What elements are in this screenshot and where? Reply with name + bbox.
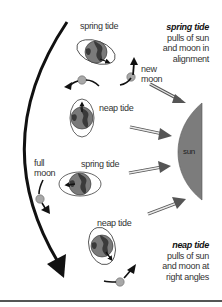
earth-neap-tide-lower-icon bbox=[85, 224, 120, 267]
label-neap-tide-upper: neap tide bbox=[99, 103, 133, 113]
sunlight-arrow-icon bbox=[129, 161, 171, 173]
caption-spring-tide: spring tide pulls of sun and moon in ali… bbox=[129, 22, 209, 64]
caption-spring-tide-body: pulls of sun and moon in alignment bbox=[129, 33, 209, 65]
orbit-arrow-icon bbox=[24, 22, 67, 278]
sunlight-arrow-icon bbox=[148, 197, 186, 214]
sunlight-arrows bbox=[129, 84, 186, 214]
caption-neap-tide-title: neap tide bbox=[129, 240, 209, 251]
label-full-moon: full moon bbox=[34, 158, 55, 178]
sunlight-arrow-icon bbox=[150, 84, 186, 103]
caption-neap-tide: neap tide pulls of sun and moon at right… bbox=[129, 240, 209, 282]
bottom-divider bbox=[0, 300, 222, 302]
earth-spring-tide-new-moon-icon bbox=[73, 35, 118, 69]
label-neap-tide-lower: neap tide bbox=[97, 218, 131, 228]
label-new-moon: new moon bbox=[141, 64, 162, 84]
earth-neap-tide-upper-icon bbox=[70, 99, 94, 137]
moon-orbit-indicator-icon bbox=[64, 76, 99, 90]
label-spring-tide-middle: spring tide bbox=[81, 159, 119, 169]
caption-spring-tide-title: spring tide bbox=[129, 22, 209, 33]
label-sun: sun bbox=[183, 147, 195, 156]
full-moon-icon bbox=[36, 180, 50, 214]
earth-spring-tide-full-moon-icon bbox=[59, 172, 101, 196]
label-spring-tide-top: spring tide bbox=[80, 21, 118, 31]
caption-neap-tide-body: pulls of sun and moon at right angles bbox=[129, 251, 209, 283]
sunlight-arrow-icon bbox=[130, 127, 172, 140]
